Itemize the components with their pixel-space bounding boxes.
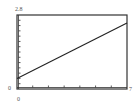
plot-frame [17, 15, 127, 89]
data-line [17, 23, 127, 79]
plot-area [0, 0, 135, 111]
